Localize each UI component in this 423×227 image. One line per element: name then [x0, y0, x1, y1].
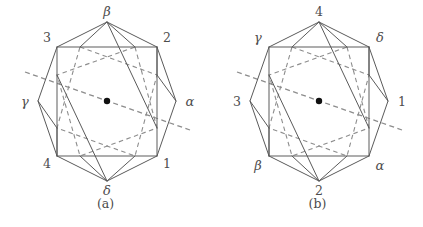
- interior-chord-top-a: [107, 22, 157, 128]
- apex-bottom-edges-a: [57, 156, 157, 181]
- interior-chord-bottom-a: [57, 75, 107, 181]
- apex-right-edges-a: [157, 47, 176, 156]
- label-corner-top-left-b: γ: [254, 30, 262, 45]
- label-corner-bottom-right-b: α: [376, 158, 385, 173]
- apex-right-edges-b: [369, 47, 388, 156]
- caption-a: (a): [0, 196, 211, 211]
- apex-left-edges-a: [38, 47, 57, 156]
- label-corner-bottom-right-a: 1: [163, 156, 171, 171]
- panel-b: 4 γ δ 3 1 β α 2 (b): [212, 0, 423, 227]
- center-dot-b: [316, 98, 322, 104]
- label-apex-right-a: α: [186, 94, 195, 109]
- label-corner-bottom-left-a: 4: [43, 156, 51, 171]
- interior-chord-top-b: [319, 22, 369, 128]
- center-dot-a: [104, 98, 110, 104]
- apex-left-edges-b: [250, 47, 269, 156]
- interior-chord-bottom-b: [269, 75, 319, 181]
- label-apex-left-a: γ: [21, 94, 29, 109]
- caption-b: (b): [212, 196, 423, 211]
- label-apex-top-a: β: [102, 4, 111, 19]
- label-corner-top-right-b: δ: [376, 30, 384, 45]
- apex-top-edges-a: [57, 22, 157, 47]
- apex-bottom-edges-b: [269, 156, 369, 181]
- label-apex-top-b: 4: [315, 4, 323, 19]
- apex-top-edges-b: [269, 22, 369, 47]
- label-corner-top-right-a: 2: [163, 30, 171, 45]
- label-corner-bottom-left-b: β: [253, 158, 262, 173]
- panel-a: β 3 2 γ α 4 1 δ (a): [0, 0, 211, 227]
- label-corner-top-left-a: 3: [43, 30, 51, 45]
- label-apex-right-b: 1: [398, 94, 406, 109]
- panel-b-drawing: 4 γ δ 3 1 β α 2: [212, 0, 423, 200]
- label-apex-left-b: 3: [233, 94, 241, 109]
- figure-root: β 3 2 γ α 4 1 δ (a) 4 γ δ: [0, 0, 423, 227]
- panel-a-drawing: β 3 2 γ α 4 1 δ: [0, 0, 211, 200]
